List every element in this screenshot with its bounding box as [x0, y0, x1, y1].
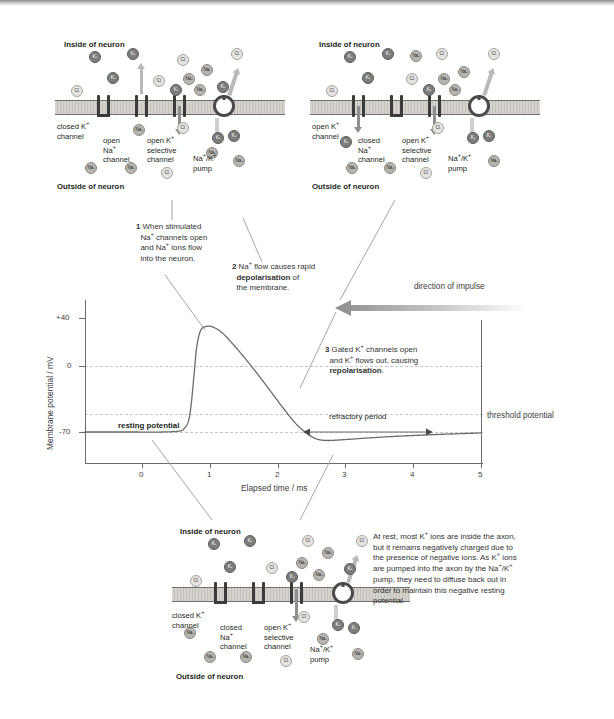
leader-line-bottom-right: [300, 455, 333, 520]
leader-line-bottom-left: [152, 440, 212, 520]
leader-line-callout2: [243, 218, 262, 262]
leader-line-topright: [340, 200, 395, 300]
leader-line-callout3: [300, 312, 336, 388]
figure-root: Inside of neuron K+ K+ K+ Cl- Cl- Cl- Cl…: [0, 0, 614, 719]
leader-line-callout1: [165, 275, 205, 330]
leader-lines: [0, 0, 614, 719]
